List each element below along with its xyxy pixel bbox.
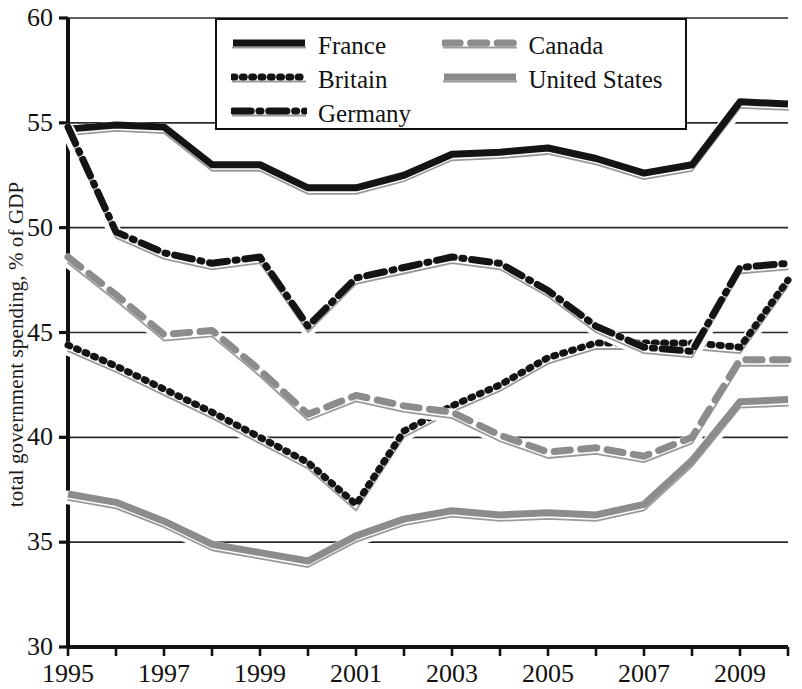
legend-swatch-solid-gray-line [442, 71, 518, 87]
legend-label: Canada [529, 33, 604, 58]
legend-line-glyph [442, 37, 518, 53]
legend-item-united-states[interactable]: United States [442, 62, 672, 96]
legend-item-germany[interactable]: Germany [231, 96, 420, 130]
legend-label: United States [529, 67, 663, 92]
legend-swatch-dotted-black-line [231, 71, 307, 87]
legend-label: Britain [318, 67, 387, 92]
chart-container: total government spending, % of GDP 3035… [0, 0, 802, 689]
data-series-layer [68, 102, 788, 567]
legend-item-canada[interactable]: Canada [442, 28, 672, 62]
legend-line-glyph [231, 71, 307, 87]
legend: FranceCanadaBritainUnited StatesGermany [215, 18, 687, 130]
legend-swatch-dashed-gray-line [442, 37, 518, 53]
legend-item-france[interactable]: France [231, 28, 420, 62]
legend-swatch-solid-black-line [231, 37, 307, 53]
legend-line-glyph [231, 37, 307, 53]
legend-item-britain[interactable]: Britain [231, 62, 420, 96]
series-shadow [68, 263, 788, 462]
legend-line-glyph [231, 105, 307, 121]
legend-items: FranceCanadaBritainUnited StatesGermany [217, 20, 685, 138]
legend-label: Germany [318, 101, 411, 126]
legend-swatch-dashdot-black-line [231, 105, 307, 121]
legend-line-glyph [442, 71, 518, 87]
legend-label: France [318, 33, 386, 58]
